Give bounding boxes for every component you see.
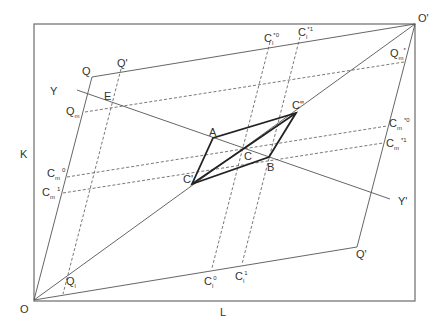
label-y: Y <box>50 85 58 97</box>
dashed-line-cm1 <box>63 143 383 193</box>
label-q: Q <box>82 65 91 77</box>
dashed-line-qm <box>85 62 404 112</box>
label-c-m-0: Cm0 <box>47 167 66 181</box>
label-k: K <box>20 148 28 160</box>
label-c-l-0: Cl0 <box>204 275 217 289</box>
edgeworth-box-diagram: O O' K L Q Q' Q' Y Y' E A B C C' C" Qm Q… <box>0 0 444 329</box>
label-q-l: Ql <box>66 275 76 289</box>
label-o-prime: O' <box>418 12 429 24</box>
dashed-line-cl0 <box>212 42 270 268</box>
label-b: B <box>267 161 274 173</box>
label-c-prime: C' <box>183 173 193 185</box>
label-e: E <box>104 90 111 102</box>
label-c-double-prime: C" <box>292 99 304 111</box>
label-c-m-star1: Cm*1 <box>386 137 407 151</box>
label-c-l-star1: Cl*1 <box>298 26 314 40</box>
label-c-m-star0: Cm*0 <box>389 117 410 131</box>
label-q-prime-bottom: Q' <box>356 248 367 260</box>
label-q-prime-top: Q' <box>117 57 128 69</box>
label-c-m-1: Cm1 <box>42 186 61 200</box>
label-o: O <box>20 303 29 315</box>
label-y-prime: Y' <box>398 195 407 207</box>
label-c-l-1: Cl1 <box>235 270 248 284</box>
label-c-l-star0: Cl*0 <box>264 32 280 46</box>
label-q-m-star: Qm* <box>390 47 407 61</box>
label-q-m: Qm <box>66 105 80 119</box>
label-a: A <box>209 126 217 138</box>
label-c: C <box>244 150 252 162</box>
label-l: L <box>220 306 226 318</box>
